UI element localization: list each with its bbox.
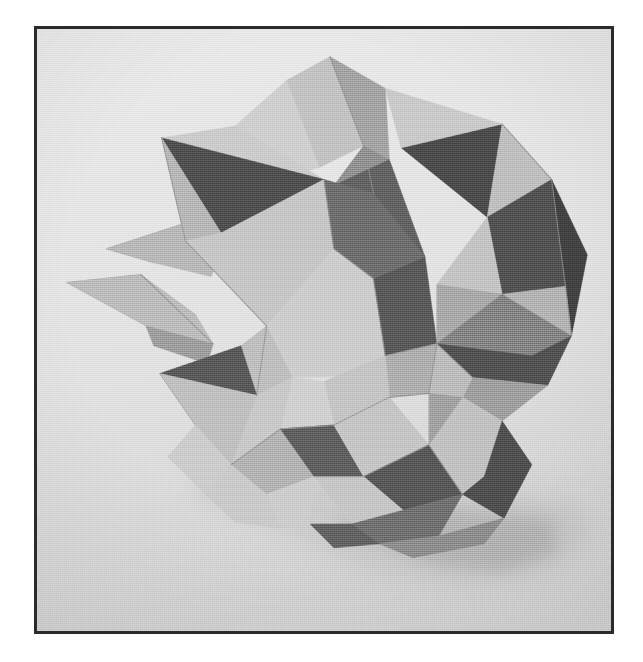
origami-photograph (37, 29, 611, 631)
photo-alt-text: Black and white photograph of a modular … (0, 0, 1, 1)
photo-caption (0, 0, 1, 1)
page-root: Black and white photograph of a modular … (0, 0, 643, 662)
photo-subject: Paper model of a compound stellated poly… (0, 0, 1, 1)
photo-frame (34, 26, 614, 634)
